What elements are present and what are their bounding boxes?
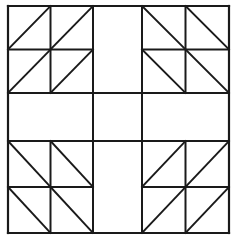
pattern-svg-canvas bbox=[0, 0, 237, 242]
figure-background bbox=[0, 0, 237, 242]
quilt-block-figure bbox=[0, 0, 237, 242]
